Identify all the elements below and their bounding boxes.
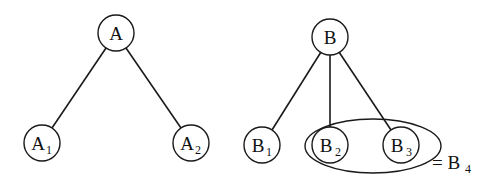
node-b2-subscript: 2	[335, 145, 341, 159]
node-b2: B 2	[312, 127, 348, 163]
node-a1: A 1	[24, 125, 60, 161]
node-a2-label: A	[180, 133, 194, 154]
edge-b-b1	[272, 52, 321, 130]
edge-a-a2	[126, 48, 181, 128]
tree-diagram: A A 1 A 2 B B 1 B 2 B 3 = B 4	[0, 0, 484, 183]
node-b1-label: B	[252, 135, 265, 156]
edge-b-b3	[339, 52, 391, 130]
node-b3-label: B	[391, 135, 404, 156]
node-a1-subscript: 1	[46, 143, 52, 157]
node-b: B	[312, 19, 348, 55]
node-b3: B 3	[383, 127, 419, 163]
tree-a-edges	[52, 48, 181, 128]
node-a2-subscript: 2	[195, 143, 201, 157]
node-a1-label: A	[31, 133, 45, 154]
node-b2-label: B	[320, 135, 333, 156]
tree-b-edges	[272, 52, 391, 130]
edge-a-a1	[52, 48, 106, 128]
node-b1-subscript: 1	[266, 145, 272, 159]
equals-b-subscript: 4	[465, 162, 471, 176]
group-equals-label: = B 4	[432, 152, 471, 176]
node-a2: A 2	[173, 125, 209, 161]
equals-b-label: = B	[432, 152, 460, 173]
node-b1: B 1	[244, 127, 280, 163]
node-b-label: B	[324, 27, 337, 48]
node-b3-subscript: 3	[406, 145, 412, 159]
node-a-label: A	[109, 23, 123, 44]
node-a: A	[98, 15, 134, 51]
